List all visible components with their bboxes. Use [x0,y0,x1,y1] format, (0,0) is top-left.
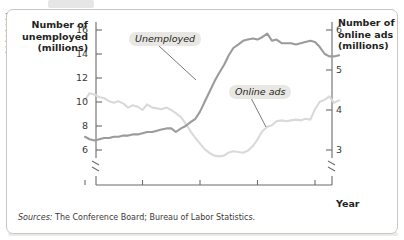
series-line-unemployed [85,34,339,141]
left-axis-tick-label: 16 [70,24,88,35]
right-axis-break-mark-1 [328,161,335,165]
right-axis-title-line-3: (millions) [338,40,400,52]
x-axis-title: Year [336,198,360,209]
left-axis-break-mark-1 [92,161,99,165]
figure-container: Number ofunemployed(millions) Number ofo… [0,0,404,240]
leader-line-online-ads [251,98,266,127]
right-axis-break-mark-2 [328,167,335,171]
series-label-unemployed: Unemployed [129,32,201,46]
source-note-lead: Sources: [18,213,53,222]
left-axis-tick-label: 6 [70,144,88,155]
right-axis-tick-label: 6 [336,24,348,35]
series-label-online-ads: Online ads [229,85,291,99]
left-axis-tick-label: 14 [70,48,88,59]
source-note-text: The Conference Board; Bureau of Labor St… [53,213,256,222]
left-axis-tick-label: 10 [70,96,88,107]
left-axis-tick-label: 12 [70,72,88,83]
leader-line-unemployed [159,46,196,80]
left-axis-break-mark-2 [92,167,99,171]
series-line-online-ads [85,93,339,156]
source-note: Sources: The Conference Board; Bureau of… [18,213,255,222]
right-axis-tick-label: 5 [336,64,348,75]
right-axis-tick-label: 3 [336,144,348,155]
right-axis-tick-label: 4 [336,104,348,115]
left-axis-tick-label: 8 [70,120,88,131]
